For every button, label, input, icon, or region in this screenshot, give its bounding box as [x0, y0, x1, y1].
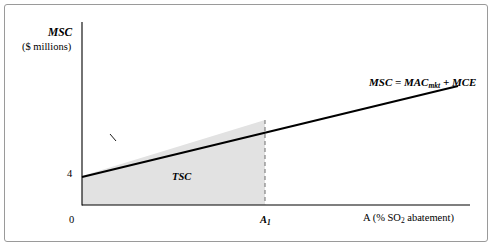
x-axis-label: A (% SO2 abatement) [363, 212, 454, 225]
x-tick-label-origin: 0 [69, 214, 74, 225]
msc-curve [82, 86, 458, 177]
curve-annotation-tick [110, 134, 116, 141]
x-axis-label-prefix: A (% SO [363, 212, 401, 223]
x-tick-label-a1-subscript: 1 [267, 218, 271, 227]
chart-page: MSC ($ millions) A (% SO2 abatement) MSC… [0, 0, 493, 247]
tsc-area-label: TSC [172, 171, 191, 182]
curve-label-subscript: mkt [428, 81, 440, 90]
y-axis-label-main: MSC [48, 26, 72, 38]
chart-canvas [0, 0, 493, 247]
curve-label-trail: + MCE [440, 76, 476, 88]
tsc-shaded-area [82, 120, 265, 205]
x-tick-label-a1: A1 [260, 214, 271, 227]
curve-label: MSC = MACmkt + MCE [369, 76, 476, 90]
y-tick-label-4: 4 [67, 168, 72, 179]
y-axis-label-units: ($ millions) [22, 41, 71, 52]
curve-label-lead: MSC = MAC [369, 76, 428, 88]
x-tick-label-a1-base: A [260, 214, 267, 225]
x-axis-label-suffix: abatement) [405, 212, 454, 223]
